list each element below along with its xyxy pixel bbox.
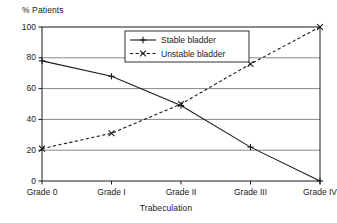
legend-label: Unstable bladder — [161, 49, 225, 59]
legend-label: Stable bladder — [161, 35, 216, 45]
x-axis-ticks — [42, 181, 320, 185]
data-point-marker — [39, 58, 45, 64]
data-point-marker — [317, 178, 323, 184]
x-axis-title: Trabeculation — [0, 203, 332, 213]
series-line — [42, 61, 320, 181]
data-point-marker — [108, 73, 114, 79]
y-axis-ticks — [39, 27, 43, 181]
chart-legend: Stable bladderUnstable bladder — [125, 31, 249, 62]
data-series — [39, 58, 323, 185]
data-point-marker — [247, 144, 253, 150]
